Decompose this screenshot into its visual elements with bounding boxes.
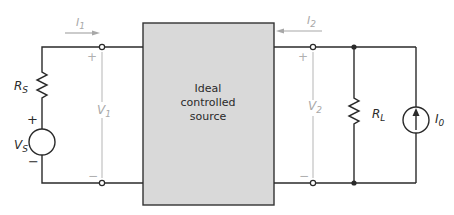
current-source-label: I0 xyxy=(435,112,445,128)
output-voltage-minus: − xyxy=(299,169,309,183)
output-loop-wires xyxy=(274,47,416,183)
output-voltage-plus: + xyxy=(298,50,308,64)
voltage-source xyxy=(29,129,55,155)
load-resistor-label: RL xyxy=(372,107,385,123)
block-label-line-2: controlled xyxy=(181,96,236,109)
input-current-arrow-icon xyxy=(65,31,100,36)
voltage-source-label: VS xyxy=(14,138,28,154)
input-current-label: I1 xyxy=(76,16,85,31)
junction-bottom xyxy=(351,180,356,185)
input-voltage-label: V1 xyxy=(97,103,111,119)
output-voltage-label: V2 xyxy=(308,99,322,115)
input-terminal-top xyxy=(99,44,104,49)
input-voltage-minus: − xyxy=(88,169,98,183)
voltage-source-minus: − xyxy=(28,154,39,169)
output-terminal-bottom xyxy=(310,180,315,185)
source-resistor xyxy=(37,68,47,100)
input-terminal-bottom xyxy=(99,180,104,185)
block-label-line-3: source xyxy=(190,110,227,123)
source-resistor-label: RS xyxy=(14,79,28,95)
input-voltage-plus: + xyxy=(87,50,97,64)
output-current-arrow-icon xyxy=(276,29,322,34)
block-label-line-1: Ideal xyxy=(195,82,222,95)
load-resistor xyxy=(349,95,359,127)
input-loop-wires xyxy=(42,47,143,183)
output-terminal-top xyxy=(310,44,315,49)
circuit-diagram: Ideal controlled source RS + − VS I1 + −… xyxy=(0,0,454,215)
junction-top xyxy=(351,44,356,49)
output-current-label: I2 xyxy=(307,14,316,29)
voltage-source-plus: + xyxy=(27,112,38,127)
